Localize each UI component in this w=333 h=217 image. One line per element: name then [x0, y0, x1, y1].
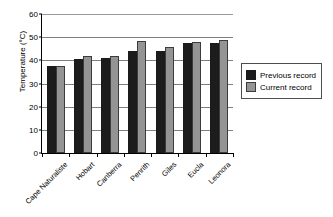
bar-current-record [137, 41, 146, 153]
bar-group [69, 14, 96, 153]
legend-item-current-record: Current record [246, 82, 316, 92]
bar-previous-record [183, 43, 192, 153]
legend-item-previous-record: Previous record [246, 70, 316, 80]
bar-current-record [110, 56, 119, 153]
y-axis-tick-label: 10 [0, 125, 42, 134]
y-axis-tick-label: 50 [0, 33, 42, 42]
y-axis-tick-label: 20 [0, 102, 42, 111]
x-axis-tick-label: Leonora [207, 160, 233, 186]
legend: Previous record Current record [241, 63, 322, 99]
bar-group [178, 14, 205, 153]
bar-current-record [165, 47, 174, 153]
x-axis-tick-label: Penrith [128, 160, 151, 183]
x-axis-tick-mark [233, 153, 234, 157]
bar-group [124, 14, 151, 153]
y-axis-tick-label: 40 [0, 56, 42, 65]
bar-previous-record [101, 58, 110, 153]
bar-group [42, 14, 69, 153]
bar-previous-record [47, 66, 56, 153]
x-axis-tick-label: Giles [160, 160, 178, 178]
legend-label-previous-record: Previous record [260, 71, 316, 80]
bar-previous-record [210, 43, 219, 153]
y-axis-tick-mark [39, 129, 42, 130]
bar-chart: Temperature (°C) 6050403020100 Cape Natu… [0, 0, 333, 217]
x-axis-labels: Cape NaturalisteHobartCanberraPenrithGil… [41, 154, 232, 214]
y-axis-tick-mark [39, 60, 42, 61]
y-axis-tick-label: 60 [0, 10, 42, 19]
x-axis-tick-label: Cape Naturaliste [23, 160, 69, 206]
legend-swatch-icon-current-record [246, 82, 256, 92]
bar-current-record [219, 40, 228, 153]
y-axis-tick-label: 30 [0, 79, 42, 88]
legend-swatch-icon-previous-record [246, 70, 256, 80]
legend-label-current-record: Current record [260, 83, 312, 92]
bar-previous-record [128, 51, 137, 153]
y-axis-tick-mark [39, 106, 42, 107]
bar-group [97, 14, 124, 153]
y-axis-tick-mark [39, 37, 42, 38]
y-axis-tick-mark [39, 14, 42, 15]
bar-previous-record [74, 59, 83, 153]
plot-area: 6050403020100 [41, 14, 233, 154]
bar-current-record [56, 66, 65, 153]
bar-current-record [83, 56, 92, 153]
bar-group [151, 14, 178, 153]
bar-group [206, 14, 233, 153]
y-axis-tick-mark [39, 83, 42, 84]
bars-layer [42, 14, 233, 153]
x-axis-tick-label: Canberra [95, 160, 123, 188]
y-axis-tick-label: 0 [0, 149, 42, 158]
x-axis-tick-label: Eucla [186, 160, 206, 180]
x-axis-tick-label: Hobart [74, 160, 96, 182]
bar-current-record [192, 42, 201, 153]
bar-previous-record [156, 51, 165, 153]
